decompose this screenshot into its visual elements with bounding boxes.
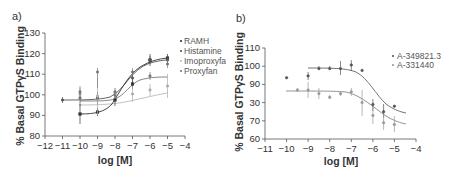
x-ticks-a: −12 −11 −10 −9 −8 −7 −6 −5 −4: [37, 136, 190, 151]
chart-panel-b: b) % Basal GTPγS Binding 60 70 30 90 100…: [226, 0, 452, 172]
legend-marker-ramh: [180, 40, 182, 42]
legend-a: RAMH Histamine Imoproxyfan Proxyfan: [180, 36, 226, 76]
x-axis-title-a: log [M]: [98, 154, 132, 166]
svg-text:90: 90: [29, 109, 40, 120]
legend-label-a331440: A-331440: [397, 60, 434, 70]
y-ticks-a: 80 90 100 110 120 130: [24, 27, 45, 141]
svg-text:30: 30: [249, 97, 260, 108]
svg-text:−6: −6: [145, 140, 156, 151]
svg-text:−9: −9: [303, 143, 314, 154]
x-axis-title-b: log [M]: [324, 155, 358, 167]
legend-marker-imoproxyfan: [180, 60, 182, 62]
data-points-a: [61, 54, 168, 124]
svg-text:100: 100: [24, 89, 40, 100]
y-ticks-b: 60 70 30 90 100 110: [244, 42, 265, 144]
legend-marker-a349821: [392, 55, 394, 57]
svg-text:130: 130: [24, 27, 40, 38]
svg-text:−7: −7: [127, 140, 138, 151]
svg-text:−12: −12: [37, 140, 53, 151]
svg-text:−11: −11: [55, 140, 70, 151]
chart-a-svg: % Basal GTPγS Binding 80 90 100 110 120 …: [0, 0, 226, 172]
svg-text:−6: −6: [367, 143, 378, 154]
svg-text:−8: −8: [110, 140, 121, 151]
legend-marker-a331440: [392, 64, 394, 66]
svg-text:−5: −5: [162, 140, 173, 151]
svg-text:110: 110: [245, 42, 260, 53]
svg-text:−8: −8: [324, 143, 335, 154]
svg-text:70: 70: [249, 115, 260, 126]
svg-text:−9: −9: [92, 140, 103, 151]
y-axis-title-a: % Basal GTPγS Binding: [14, 26, 26, 146]
legend-label-proxyfan: Proxyfan: [184, 66, 218, 76]
fit-curves-b: [286, 68, 406, 124]
svg-text:110: 110: [25, 68, 40, 79]
svg-text:−5: −5: [389, 143, 400, 154]
legend-label-ramh: RAMH: [184, 36, 209, 46]
svg-text:−10: −10: [72, 140, 88, 151]
svg-text:−4: −4: [411, 143, 422, 154]
svg-text:120: 120: [24, 48, 40, 59]
svg-text:100: 100: [244, 60, 260, 71]
y-axis-title-b: % Basal GTPγS Binding: [233, 32, 245, 152]
legend-label-histamine: Histamine: [184, 46, 222, 56]
svg-text:−4: −4: [180, 140, 191, 151]
legend-marker-proxyfan: [180, 70, 182, 72]
svg-text:−11: −11: [257, 143, 272, 154]
legend-label-imoproxyfan: Imoproxyfan: [184, 56, 226, 66]
chart-panel-a: a) % Basal GTPγS Binding 80 90 100 110 1…: [0, 0, 226, 172]
legend-b: A-349821.3 A-331440: [392, 51, 441, 70]
svg-text:−10: −10: [279, 143, 295, 154]
svg-text:90: 90: [249, 78, 260, 89]
chart-b-svg: % Basal GTPγS Binding 60 70 30 90 100 11…: [226, 0, 452, 172]
legend-marker-histamine: [180, 50, 182, 52]
svg-text:−7: −7: [346, 143, 357, 154]
x-ticks-b: −11 −10 −9 −8 −7 −6 −5 −4: [257, 139, 421, 154]
